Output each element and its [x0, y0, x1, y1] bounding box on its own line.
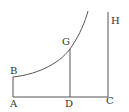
label-b: B	[10, 65, 17, 76]
label-g: G	[62, 36, 70, 47]
label-h: H	[111, 15, 120, 26]
label-d: D	[65, 98, 73, 109]
geometry-diagram: B A G D C H	[0, 0, 129, 112]
label-a: A	[9, 98, 18, 109]
curve-bg	[13, 11, 88, 77]
label-c: C	[106, 95, 114, 106]
